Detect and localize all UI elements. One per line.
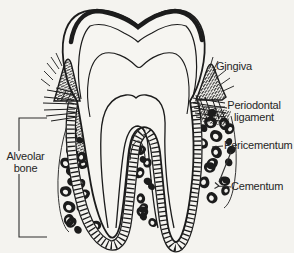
label-cementum: Cementum [231,181,283,193]
label-periodontal-ligament: Periodontal ligament [221,100,287,123]
label-alveolar-line2: bone [14,162,38,174]
tooth-illustration [0,0,294,253]
tooth-anatomy-figure: Gingiva Periodontal ligament Pericementu… [0,0,294,253]
label-alveolar-bone: Alveolar bone [2,151,49,174]
leader-pericementum [212,146,223,147]
label-pericementum: Pericementum [224,140,293,152]
label-gingiva: Gingiva [216,61,252,73]
label-periodontal-line2: ligament [234,111,274,123]
bracket-alveolar-bone [19,118,47,237]
label-periodontal-line1: Periodontal [227,99,280,111]
label-alveolar-line1: Alveolar [6,150,44,162]
